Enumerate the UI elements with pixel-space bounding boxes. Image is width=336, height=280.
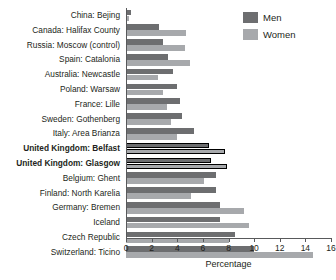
category-label: Poland: Warsaw — [0, 82, 124, 97]
bar-women — [126, 193, 191, 199]
chart-row: China: Bejing — [0, 8, 336, 23]
chart-row: Poland: Warsaw — [0, 82, 336, 97]
bar-men — [126, 158, 211, 164]
bar-men — [126, 54, 168, 60]
bar-women — [126, 223, 249, 229]
category-label: Switzerland: Ticino — [0, 245, 124, 260]
chart-row: Spain: Catalonia — [0, 52, 336, 67]
bar-group — [124, 52, 336, 67]
chart-row: Iceland — [0, 215, 336, 230]
bar-men — [126, 143, 209, 149]
bar-group — [124, 200, 336, 215]
chart-row: United Kingdom: Belfast — [0, 141, 336, 156]
x-tick — [177, 238, 178, 242]
category-label: Finland: North Karelia — [0, 186, 124, 201]
bar-group — [124, 82, 336, 97]
category-label: Spain: Catalonia — [0, 52, 124, 67]
chart-row: Germany: Bremen — [0, 200, 336, 215]
category-label: Australia: Newcastle — [0, 67, 124, 82]
x-tick-label: 10 — [249, 243, 258, 253]
x-tick — [254, 238, 255, 242]
category-label: Sweden: Gothenberg — [0, 112, 124, 127]
x-tick-label: 8 — [226, 243, 231, 253]
y-axis-line — [126, 8, 127, 239]
category-label: China: Bejing — [0, 8, 124, 23]
x-tick-label: 14 — [301, 243, 310, 253]
bar-women — [126, 149, 225, 155]
x-axis-label: Percentage — [126, 259, 331, 269]
category-label: United Kingdom: Glasgow — [0, 156, 124, 171]
bar-women — [126, 104, 167, 110]
chart-row: United Kingdom: Glasgow — [0, 156, 336, 171]
x-tick — [305, 238, 306, 242]
bar-group — [124, 126, 336, 141]
category-label: Russia: Moscow (control) — [0, 38, 124, 53]
category-label: United Kingdom: Belfast — [0, 141, 124, 156]
bar-group — [124, 97, 336, 112]
x-tick-label: 16 — [326, 243, 335, 253]
category-label: Germany: Bremen — [0, 200, 124, 215]
bar-men — [126, 232, 235, 238]
chart-row: Belgium: Ghent — [0, 171, 336, 186]
bar-group — [124, 141, 336, 156]
category-label: Czech Republic — [0, 230, 124, 245]
bar-women — [126, 90, 163, 96]
bar-group — [124, 38, 336, 53]
bar-women — [126, 45, 185, 51]
bar-group — [124, 156, 336, 171]
chart-row: Canada: Halifax County — [0, 23, 336, 38]
x-tick — [126, 238, 127, 242]
bar-women — [126, 60, 190, 66]
x-tick — [280, 238, 281, 242]
x-tick-label: 4 — [175, 243, 180, 253]
bar-group — [124, 8, 336, 23]
grouped-bar-chart: Men Women China: BejingCanada: Halifax C… — [0, 0, 336, 280]
bar-group — [124, 171, 336, 186]
x-tick — [203, 238, 204, 242]
bar-men — [126, 39, 163, 45]
chart-row: Finland: North Karelia — [0, 186, 336, 201]
chart-row: Russia: Moscow (control) — [0, 38, 336, 53]
x-tick-label: 6 — [201, 243, 206, 253]
bar-women — [126, 164, 227, 170]
bar-women — [126, 30, 186, 36]
bar-group — [124, 186, 336, 201]
bar-men — [126, 98, 180, 104]
bar-men — [126, 84, 177, 90]
bar-group — [124, 67, 336, 82]
x-tick-label: 12 — [275, 243, 284, 253]
bar-women — [126, 252, 313, 258]
bar-men — [126, 10, 131, 16]
bar-group — [124, 215, 336, 230]
chart-row: Australia: Newcastle — [0, 67, 336, 82]
x-tick-label: 2 — [149, 243, 154, 253]
bar-men — [126, 246, 254, 252]
category-label: Canada: Halifax County — [0, 23, 124, 38]
x-tick — [152, 238, 153, 242]
chart-row: Italy: Area Brianza — [0, 126, 336, 141]
bar-women — [126, 75, 158, 81]
bar-men — [126, 128, 194, 134]
bar-men — [126, 24, 159, 30]
category-label: France: Lille — [0, 97, 124, 112]
chart-row: Sweden: Gothenberg — [0, 112, 336, 127]
bar-men — [126, 113, 182, 119]
bar-men — [126, 69, 173, 75]
bar-men — [126, 217, 220, 223]
bar-group — [124, 23, 336, 38]
x-tick — [229, 238, 230, 242]
category-label: Belgium: Ghent — [0, 171, 124, 186]
category-label: Italy: Area Brianza — [0, 126, 124, 141]
x-tick-label: 0 — [124, 243, 129, 253]
bar-women — [126, 178, 204, 184]
bar-women — [126, 119, 171, 125]
bar-men — [126, 202, 220, 208]
bar-women — [126, 208, 244, 214]
chart-rows: China: BejingCanada: Halifax CountyRussi… — [0, 8, 336, 260]
bar-women — [126, 134, 177, 140]
bar-men — [126, 172, 216, 178]
chart-row: Switzerland: Ticino — [0, 245, 336, 260]
bar-men — [126, 187, 216, 193]
x-tick — [331, 238, 332, 242]
category-label: Iceland — [0, 215, 124, 230]
